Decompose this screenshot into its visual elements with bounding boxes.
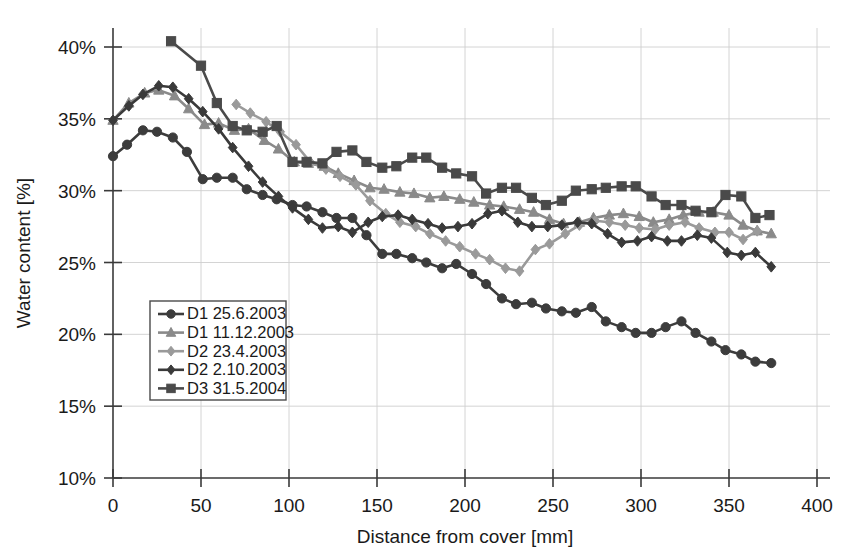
circle-marker — [302, 202, 311, 211]
square-marker — [511, 183, 520, 192]
y-tick-label: 35% — [58, 109, 96, 130]
diamond-marker — [737, 250, 746, 261]
x-tick-label: 100 — [273, 495, 305, 516]
diamond-marker — [348, 227, 357, 238]
diamond-marker — [633, 236, 642, 247]
square-marker — [302, 157, 311, 166]
square-marker — [362, 157, 371, 166]
circle-marker — [228, 173, 237, 182]
x-axis-ticks: 050100150200250300350400 — [108, 469, 833, 516]
circle-marker — [167, 310, 175, 318]
circle-marker — [571, 308, 580, 317]
square-marker — [661, 200, 670, 209]
diamond-marker — [425, 228, 434, 239]
circle-marker — [332, 213, 341, 222]
diamond-marker — [471, 249, 480, 260]
x-tick-label: 50 — [190, 495, 211, 516]
circle-marker — [378, 249, 387, 258]
circle-marker — [438, 264, 447, 273]
y-tick-label: 20% — [58, 324, 96, 345]
diamond-marker — [545, 239, 554, 250]
circle-marker — [467, 269, 476, 278]
y-tick-label: 15% — [58, 396, 96, 417]
x-tick-label: 400 — [801, 495, 833, 516]
legend-item-label: D2 23.4.2003 — [187, 342, 286, 360]
series-markers — [108, 85, 777, 238]
diamond-marker — [621, 220, 630, 231]
square-marker — [392, 162, 401, 171]
square-marker — [601, 183, 610, 192]
diamond-marker — [528, 221, 537, 232]
square-marker — [497, 183, 506, 192]
circle-marker — [497, 294, 506, 303]
diamond-marker — [438, 223, 447, 234]
circle-marker — [422, 258, 431, 267]
diamond-marker — [454, 221, 463, 232]
circle-marker — [212, 173, 221, 182]
square-marker — [196, 61, 205, 70]
series-line — [236, 105, 757, 272]
circle-marker — [677, 317, 686, 326]
circle-marker — [182, 147, 191, 156]
legend-item-label: D3 31.5.2004 — [187, 379, 286, 397]
x-tick-label: 350 — [713, 495, 745, 516]
square-marker — [422, 153, 431, 162]
x-axis-title: Distance from cover [mm] — [357, 526, 573, 547]
square-marker — [438, 163, 447, 172]
diamond-marker — [485, 254, 494, 265]
square-marker — [541, 200, 550, 209]
diamond-marker — [663, 236, 672, 247]
square-marker — [751, 213, 760, 222]
circle-marker — [318, 208, 327, 217]
square-marker — [721, 190, 730, 199]
chart-canvas: 10%15%20%25%30%35%40% 050100150200250300… — [0, 0, 858, 560]
square-marker — [647, 192, 656, 201]
diamond-marker — [318, 223, 327, 234]
square-marker — [332, 147, 341, 156]
series-4 — [109, 80, 776, 272]
chart-legend[interactable]: D1 25.6.2003D1 11.12.2003D2 23.4.2003D2 … — [150, 301, 294, 400]
circle-marker — [541, 304, 550, 313]
circle-marker — [242, 185, 251, 194]
square-marker — [631, 182, 640, 191]
diamond-marker — [501, 263, 510, 274]
diamond-marker — [677, 236, 686, 247]
diamond-marker — [617, 237, 626, 248]
diamond-marker — [441, 236, 450, 247]
circle-marker — [691, 328, 700, 337]
circle-marker — [601, 317, 610, 326]
circle-marker — [482, 279, 491, 288]
diamond-marker — [739, 234, 748, 245]
square-marker — [318, 159, 327, 168]
circle-marker — [198, 175, 207, 184]
y-axis-title: Water content [%] — [13, 178, 34, 328]
diamond-marker — [635, 223, 644, 234]
square-marker — [527, 193, 536, 202]
circle-marker — [258, 190, 267, 199]
diamond-marker — [246, 108, 255, 119]
series-markers — [109, 80, 776, 272]
legend-item-label: D1 25.6.2003 — [187, 304, 286, 322]
square-marker — [258, 127, 267, 136]
square-marker — [408, 153, 417, 162]
circle-marker — [737, 350, 746, 359]
x-tick-label: 300 — [625, 495, 657, 516]
square-marker — [167, 384, 175, 392]
diamond-marker — [364, 217, 373, 228]
circle-marker — [631, 328, 640, 337]
square-marker — [691, 206, 700, 215]
circle-marker — [108, 152, 117, 161]
square-marker — [228, 121, 237, 130]
square-marker — [467, 172, 476, 181]
square-marker — [452, 169, 461, 178]
x-tick-label: 150 — [361, 495, 393, 516]
square-marker — [571, 186, 580, 195]
circle-marker — [452, 259, 461, 268]
square-marker — [617, 182, 626, 191]
x-tick-label: 250 — [537, 495, 569, 516]
series-2 — [108, 85, 777, 238]
square-marker — [482, 189, 491, 198]
square-marker — [737, 192, 746, 201]
circle-marker — [168, 133, 177, 142]
square-marker — [166, 37, 175, 46]
